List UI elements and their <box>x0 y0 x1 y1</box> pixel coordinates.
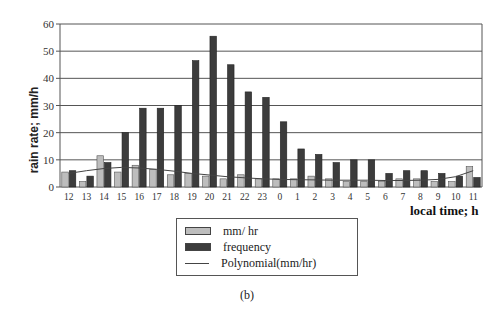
svg-text:60: 60 <box>43 18 55 30</box>
dark-bar-swatch-icon <box>185 243 211 251</box>
svg-text:15: 15 <box>117 192 127 202</box>
svg-text:1: 1 <box>295 192 300 202</box>
bar-mm-hr <box>255 179 261 187</box>
svg-text:13: 13 <box>82 192 92 202</box>
bar-frequency <box>368 160 375 187</box>
svg-text:0: 0 <box>49 181 55 193</box>
svg-text:6: 6 <box>383 192 388 202</box>
svg-text:9: 9 <box>436 192 441 202</box>
svg-text:30: 30 <box>43 100 55 112</box>
svg-text:20: 20 <box>43 127 55 139</box>
svg-text:22: 22 <box>240 192 250 202</box>
bar-mm-hr <box>431 182 438 187</box>
bar-frequency <box>403 171 410 187</box>
svg-text:2: 2 <box>313 192 318 202</box>
x-axis-ticks: 12131415161718192021222301234567891011 <box>64 192 478 202</box>
bar-series <box>62 36 480 187</box>
svg-text:21: 21 <box>222 192 232 202</box>
line-swatch-icon <box>185 263 209 264</box>
bar-frequency <box>228 65 235 187</box>
legend-item-frequency: frequency <box>185 239 271 255</box>
bar-frequency <box>298 149 305 187</box>
bar-frequency <box>474 177 481 187</box>
light-bar-swatch-icon <box>185 227 211 235</box>
bar-frequency <box>245 92 252 187</box>
legend: mm/ hr frequency Polynomial(mm/hr) <box>176 218 358 276</box>
bar-mm-hr <box>343 182 350 187</box>
svg-text:14: 14 <box>99 192 109 202</box>
bar-mm-hr <box>378 182 385 187</box>
bar-mm-hr <box>167 175 174 187</box>
legend-item-polynomial: Polynomial(mm/hr) <box>185 255 316 271</box>
bar-mm-hr <box>150 169 157 187</box>
bar-frequency <box>140 108 147 187</box>
svg-text:23: 23 <box>257 192 267 202</box>
bar-mm-hr <box>273 179 280 187</box>
legend-item-mm-hr: mm/ hr <box>185 223 258 239</box>
bar-frequency <box>456 176 463 187</box>
bar-frequency <box>175 106 182 188</box>
svg-text:11: 11 <box>469 192 478 202</box>
svg-text:3: 3 <box>330 192 335 202</box>
bar-mm-hr <box>361 182 368 187</box>
x-axis-label: local time; h <box>410 203 479 218</box>
svg-text:10: 10 <box>451 192 461 202</box>
svg-text:20: 20 <box>205 192 215 202</box>
svg-text:18: 18 <box>170 192 180 202</box>
legend-label: mm/ hr <box>223 224 258 239</box>
svg-text:4: 4 <box>348 192 353 202</box>
svg-text:19: 19 <box>187 192 197 202</box>
bar-mm-hr <box>115 172 122 187</box>
bar-mm-hr <box>202 176 209 187</box>
bar-mm-hr <box>449 182 456 187</box>
bar-frequency <box>192 61 199 187</box>
bar-frequency <box>122 133 128 187</box>
bar-frequency <box>333 163 340 187</box>
bar-mm-hr <box>97 156 104 187</box>
bar-frequency <box>210 36 217 187</box>
bar-frequency <box>104 163 111 187</box>
figure-caption: (b) <box>240 288 254 303</box>
bar-mm-hr <box>220 179 227 187</box>
bar-mm-hr <box>62 172 69 187</box>
bar-mm-hr <box>308 176 315 187</box>
svg-text:7: 7 <box>401 192 406 202</box>
bar-frequency <box>263 97 270 187</box>
svg-text:10: 10 <box>43 154 55 166</box>
y-axis-label: rain rate; mm/h <box>27 87 41 174</box>
bar-mm-hr <box>132 165 139 187</box>
bar-frequency <box>315 154 322 187</box>
bar-mm-hr <box>185 173 192 187</box>
bar-mm-hr <box>238 175 245 187</box>
y-axis-ticks: 0102030405060 <box>43 18 55 193</box>
svg-text:0: 0 <box>277 192 282 202</box>
bar-frequency <box>87 176 94 187</box>
bar-mm-hr <box>466 167 473 187</box>
svg-text:5: 5 <box>365 192 370 202</box>
svg-text:16: 16 <box>134 192 144 202</box>
bar-frequency <box>280 122 287 187</box>
svg-text:17: 17 <box>152 192 162 202</box>
svg-text:8: 8 <box>418 192 423 202</box>
legend-label: Polynomial(mm/hr) <box>221 256 316 271</box>
svg-text:50: 50 <box>43 45 55 57</box>
legend-label: frequency <box>223 240 271 255</box>
bar-mm-hr <box>79 182 86 187</box>
polynomial-trendline <box>69 167 473 180</box>
svg-text:12: 12 <box>64 192 74 202</box>
bar-frequency <box>157 108 164 187</box>
bar-frequency <box>421 171 428 187</box>
bar-frequency <box>351 160 358 187</box>
svg-text:40: 40 <box>43 72 55 84</box>
bar-frequency <box>439 173 446 187</box>
